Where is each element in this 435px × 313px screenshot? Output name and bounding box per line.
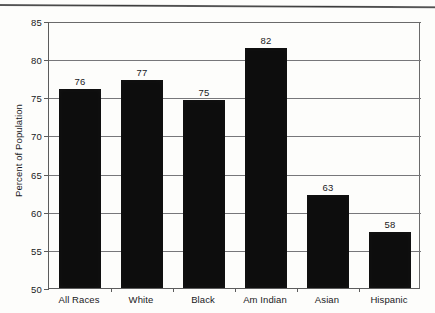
bar-value-label: 82 <box>261 35 272 46</box>
y-tick-mark <box>44 60 49 61</box>
gridline <box>49 98 421 99</box>
bar <box>307 195 349 288</box>
plot-area: 5055606570758085 767775826358 <box>48 22 420 289</box>
bar-value-label: 75 <box>199 87 210 98</box>
x-tick-mark <box>111 288 112 292</box>
x-tick-mark <box>359 288 360 292</box>
bar <box>183 100 225 288</box>
gridline <box>49 213 421 214</box>
gridline <box>49 60 421 61</box>
y-tick-label: 70 <box>31 131 42 142</box>
y-tick-label: 80 <box>31 55 42 66</box>
y-tick-mark <box>44 22 49 23</box>
bar-value-label: 58 <box>385 219 396 230</box>
x-category-label: Black <box>191 294 215 305</box>
y-tick-label: 55 <box>31 245 42 256</box>
x-tick-mark <box>235 288 236 292</box>
y-tick-label: 75 <box>31 93 42 104</box>
x-category-label: Asian <box>315 294 339 305</box>
x-category-label: Hispanic <box>370 294 407 305</box>
x-category-label: All Races <box>58 294 99 305</box>
y-tick-mark <box>44 213 49 214</box>
x-category-label: White <box>129 294 154 305</box>
y-tick-mark <box>44 175 49 176</box>
page-rule <box>0 4 435 8</box>
gridline <box>49 251 421 252</box>
bar-value-label: 76 <box>75 76 86 87</box>
bar <box>59 89 101 288</box>
bar-value-label: 63 <box>323 182 334 193</box>
y-tick-mark <box>44 136 49 137</box>
x-tick-mark <box>297 288 298 292</box>
y-tick-label: 85 <box>31 17 42 28</box>
x-tick-mark <box>173 288 174 292</box>
gridline <box>49 136 421 137</box>
bar <box>369 232 411 288</box>
gridline <box>49 175 421 176</box>
y-tick-mark <box>44 98 49 99</box>
y-tick-label: 50 <box>31 284 42 295</box>
y-tick-label: 65 <box>31 169 42 180</box>
bar <box>245 48 287 288</box>
y-tick-label: 60 <box>31 207 42 218</box>
y-tick-mark <box>44 251 49 252</box>
y-axis-title: Percent of Population <box>13 71 24 231</box>
bar <box>121 80 163 288</box>
x-category-label: Am Indian <box>243 294 287 305</box>
y-tick-mark <box>44 289 49 290</box>
figure-container: Percent of Population 5055606570758085 7… <box>0 0 435 313</box>
gridline <box>49 22 421 23</box>
bar-value-label: 77 <box>137 67 148 78</box>
